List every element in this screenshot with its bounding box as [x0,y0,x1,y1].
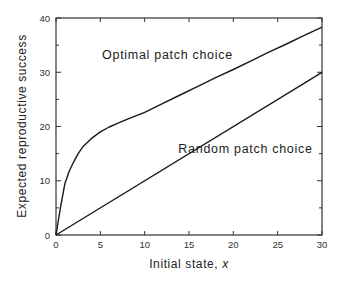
chart: 051015202530010203040 Optimal patch choi… [0,0,342,282]
x-axis-label: Initial state, x [149,257,229,271]
x-tick-label: 25 [272,239,283,250]
y-tick-label: 40 [39,13,50,24]
x-tick-label: 30 [317,239,328,250]
x-tick-label: 5 [98,239,103,250]
annotation-random: Random patch choice [178,142,312,156]
x-tick-label: 15 [184,239,195,250]
x-tick-label: 20 [228,239,239,250]
y-tick-label: 20 [39,121,50,132]
annotations: Optimal patch choiceRandom patch choice [102,48,312,155]
x-tick-label: 0 [53,239,58,250]
y-tick-label: 10 [39,175,50,186]
annotation-optimal: Optimal patch choice [102,48,233,62]
x-tick-label: 10 [139,239,150,250]
y-tick-label: 0 [45,230,50,241]
y-axis-label: Expected reproductive success [15,34,29,217]
y-tick-label: 30 [39,67,50,78]
